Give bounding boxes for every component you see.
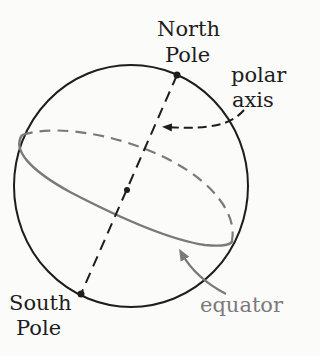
south-pole-label-line1: South [9, 291, 72, 315]
sphere-outline [14, 65, 248, 307]
north-pole-label-line2: Pole [165, 43, 210, 67]
north-pole-dot [174, 72, 181, 79]
south-pole-label-line2: Pole [16, 316, 61, 340]
polar-axis-label-line1: polar [231, 63, 287, 87]
center-dot [124, 187, 130, 193]
equator-pointer-arrow [182, 254, 226, 294]
north-pole-label-line1: North [157, 17, 220, 41]
south-pole-dot [78, 291, 85, 298]
polar-axis-label-line2: axis [232, 88, 274, 112]
polar-axis [81, 75, 177, 294]
equator-back [22, 130, 233, 240]
equator-label: equator [200, 293, 284, 317]
sphere-diagram: North Pole polar axis South Pole equator [0, 0, 320, 356]
